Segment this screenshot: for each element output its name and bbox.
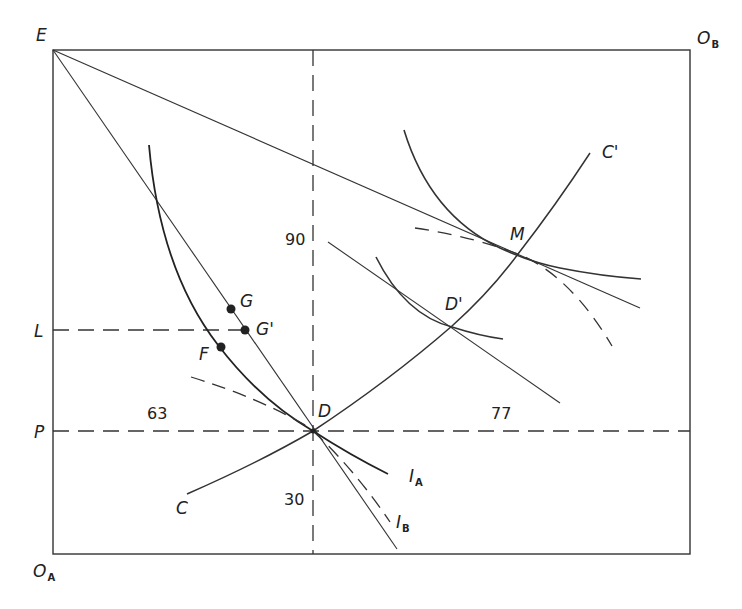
label-ia: IA — [409, 466, 423, 488]
label-c-prime: C' — [602, 142, 619, 162]
edgeworth-box-diagram: E OB OA L P 90 30 63 77 D D' M G G' F C … — [0, 0, 742, 609]
label-g-prime: G' — [256, 319, 274, 339]
indifference-curve-ia — [149, 145, 388, 474]
contract-curve — [187, 153, 590, 494]
label-d-prime: D' — [445, 294, 463, 314]
indifference-curve-d-prime — [376, 257, 503, 339]
label-p: P — [34, 422, 45, 442]
point-d — [311, 429, 316, 434]
price-line-d-prime — [328, 242, 560, 403]
point-g — [227, 305, 236, 314]
dashed-curve-near-m — [415, 228, 612, 346]
number-90: 90 — [285, 230, 305, 249]
label-oa: OA — [33, 561, 55, 583]
label-g: G — [240, 291, 253, 311]
number-30: 30 — [284, 490, 304, 509]
label-l: L — [34, 321, 43, 341]
label-d: D — [318, 401, 331, 421]
label-f: F — [199, 344, 209, 364]
label-ob: OB — [697, 28, 719, 50]
label-ib: IB — [396, 512, 410, 534]
label-e: E — [36, 25, 47, 45]
number-77: 77 — [491, 404, 511, 423]
edgeworth-box-frame — [53, 50, 690, 554]
dashed-curve-near-d — [191, 377, 310, 428]
label-m: M — [510, 224, 525, 244]
price-line-e-d — [53, 50, 397, 549]
price-line-e-m — [53, 50, 640, 308]
label-c: C — [176, 498, 188, 518]
point-g-prime — [241, 326, 250, 335]
point-f — [217, 343, 226, 352]
number-63: 63 — [147, 404, 167, 423]
